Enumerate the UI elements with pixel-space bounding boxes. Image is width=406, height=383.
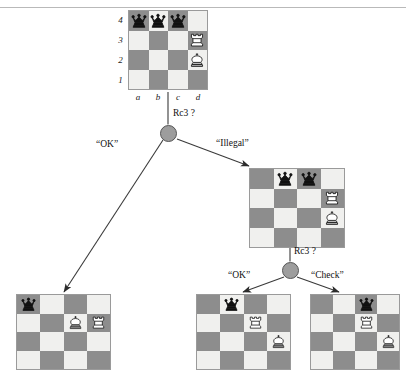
square-a2[interactable]	[129, 50, 149, 70]
square-c3[interactable]	[64, 314, 87, 333]
square-d1[interactable]	[321, 228, 345, 248]
square-d4[interactable]	[87, 295, 110, 314]
square-d2[interactable]	[321, 208, 345, 228]
square-a4[interactable]	[129, 11, 149, 31]
square-a1[interactable]	[17, 351, 40, 370]
white-king-icon	[321, 208, 345, 228]
square-a2[interactable]	[17, 332, 40, 351]
white-rook-icon	[321, 189, 345, 209]
edge-label-second-check: “Check”	[311, 270, 344, 280]
square-a3[interactable]	[17, 314, 40, 333]
square-a2[interactable]	[250, 208, 274, 228]
square-d4[interactable]	[321, 169, 345, 189]
square-b2[interactable]	[274, 208, 298, 228]
file-labels-root: a b c d	[128, 92, 208, 104]
white-king-icon	[64, 314, 87, 333]
decision-node-root[interactable]	[160, 125, 177, 142]
square-c4[interactable]	[297, 169, 321, 189]
white-king-icon	[377, 332, 399, 351]
square-b2[interactable]	[40, 332, 63, 351]
white-rook-icon	[244, 314, 267, 333]
decision-node-second[interactable]	[282, 262, 299, 279]
square-d4[interactable]	[188, 11, 208, 31]
square-d4[interactable]	[267, 295, 290, 314]
square-c1[interactable]	[64, 351, 87, 370]
square-d1[interactable]	[377, 351, 399, 370]
square-d3[interactable]	[267, 314, 290, 333]
square-c1[interactable]	[168, 70, 188, 90]
square-a3[interactable]	[250, 189, 274, 209]
square-a1[interactable]	[311, 351, 333, 370]
square-b4[interactable]	[40, 295, 63, 314]
square-b1[interactable]	[333, 351, 355, 370]
square-c1[interactable]	[355, 351, 377, 370]
square-b2[interactable]	[149, 50, 169, 70]
square-b3[interactable]	[149, 31, 169, 51]
square-c2[interactable]	[297, 208, 321, 228]
square-b4[interactable]	[274, 169, 298, 189]
square-c3[interactable]	[168, 31, 188, 51]
square-c4[interactable]	[64, 295, 87, 314]
square-a1[interactable]	[250, 228, 274, 248]
square-b3[interactable]	[274, 189, 298, 209]
square-b4[interactable]	[149, 11, 169, 31]
square-d3[interactable]	[377, 314, 399, 333]
square-a1[interactable]	[129, 70, 149, 90]
square-c1[interactable]	[297, 228, 321, 248]
square-a2[interactable]	[311, 332, 333, 351]
white-rook-icon	[87, 314, 110, 333]
square-d4[interactable]	[377, 295, 399, 314]
chessboard-check-leaf[interactable]	[310, 294, 400, 370]
square-a1[interactable]	[197, 351, 220, 370]
square-d3[interactable]	[188, 31, 208, 51]
square-c4[interactable]	[244, 295, 267, 314]
square-d2[interactable]	[267, 332, 290, 351]
square-c1[interactable]	[244, 351, 267, 370]
square-b2[interactable]	[220, 332, 243, 351]
square-b1[interactable]	[274, 228, 298, 248]
square-b1[interactable]	[40, 351, 63, 370]
root-move-label: Rc3 ?	[173, 108, 195, 118]
square-a4[interactable]	[197, 295, 220, 314]
square-a3[interactable]	[197, 314, 220, 333]
square-a4[interactable]	[250, 169, 274, 189]
square-c3[interactable]	[355, 314, 377, 333]
square-d2[interactable]	[188, 50, 208, 70]
square-d2[interactable]	[377, 332, 399, 351]
square-d1[interactable]	[188, 70, 208, 90]
square-c3[interactable]	[244, 314, 267, 333]
square-d1[interactable]	[87, 351, 110, 370]
rank-label: 1	[114, 70, 127, 90]
white-king-icon	[267, 332, 290, 351]
square-d3[interactable]	[321, 189, 345, 209]
square-b4[interactable]	[333, 295, 355, 314]
square-d2[interactable]	[87, 332, 110, 351]
square-c2[interactable]	[168, 50, 188, 70]
chessboard-root-position[interactable]	[128, 10, 208, 90]
square-b3[interactable]	[220, 314, 243, 333]
file-label: b	[148, 92, 168, 104]
square-a4[interactable]	[311, 295, 333, 314]
square-c2[interactable]	[64, 332, 87, 351]
square-c4[interactable]	[355, 295, 377, 314]
square-a4[interactable]	[17, 295, 40, 314]
square-c4[interactable]	[168, 11, 188, 31]
square-c3[interactable]	[297, 189, 321, 209]
square-a2[interactable]	[197, 332, 220, 351]
square-c2[interactable]	[244, 332, 267, 351]
square-b3[interactable]	[333, 314, 355, 333]
chessboard-illegal-branch[interactable]	[249, 168, 345, 248]
square-b1[interactable]	[220, 351, 243, 370]
square-b4[interactable]	[220, 295, 243, 314]
square-a3[interactable]	[311, 314, 333, 333]
square-b1[interactable]	[149, 70, 169, 90]
file-label: a	[128, 92, 148, 104]
square-b3[interactable]	[40, 314, 63, 333]
chessboard-ok-leaf-2[interactable]	[196, 294, 291, 370]
square-a3[interactable]	[129, 31, 149, 51]
chessboard-ok-leaf[interactable]	[16, 294, 111, 370]
square-b2[interactable]	[333, 332, 355, 351]
square-d3[interactable]	[87, 314, 110, 333]
square-d1[interactable]	[267, 351, 290, 370]
square-c2[interactable]	[355, 332, 377, 351]
